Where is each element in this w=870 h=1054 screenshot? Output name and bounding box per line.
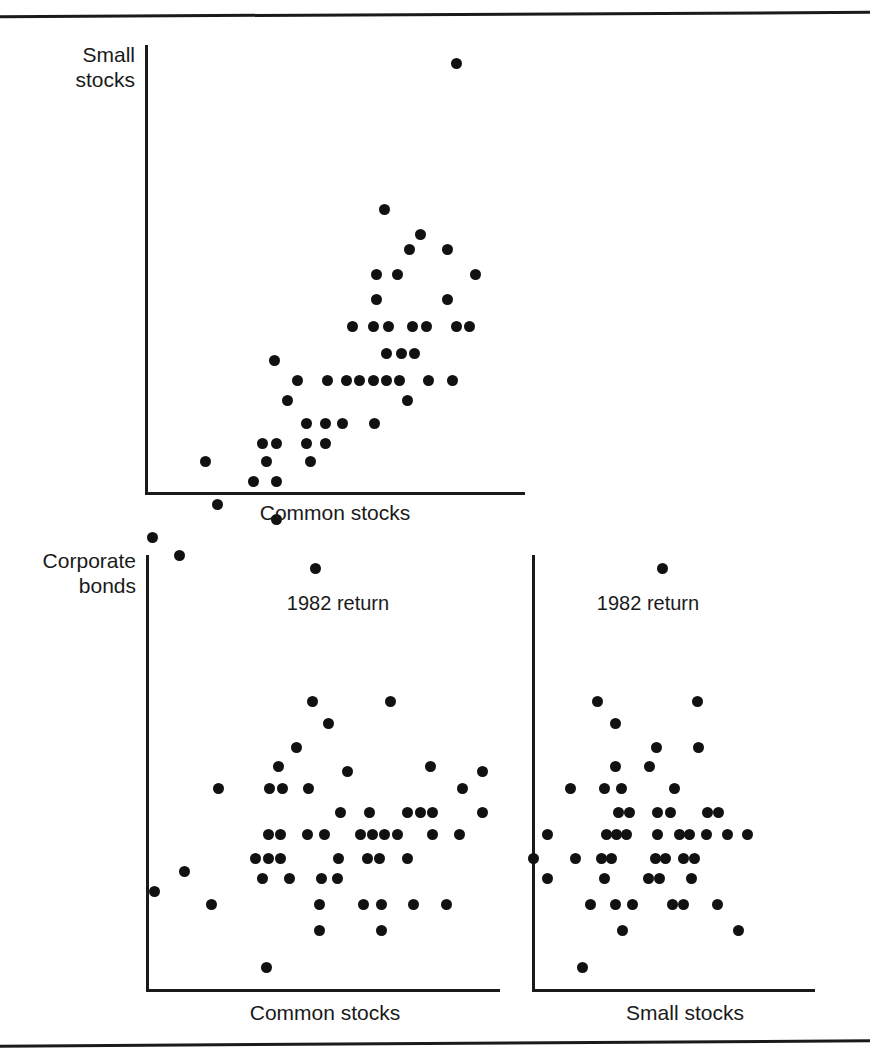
scatter-point [376, 899, 387, 910]
scatter-point [669, 783, 680, 794]
scatter-point [261, 456, 272, 467]
scatter-point [451, 58, 462, 69]
scatter-point [364, 807, 375, 818]
scatter-panel-bonds-vs-common [146, 555, 500, 992]
scatter-point [616, 783, 627, 794]
scatter-point [402, 853, 413, 864]
scatter-point [651, 742, 662, 753]
scatter-point [542, 873, 553, 884]
scatter-point [282, 395, 293, 406]
scatter-point [402, 395, 413, 406]
scatter-point [678, 899, 689, 910]
scatter-point [379, 204, 390, 215]
scatter-point [307, 696, 318, 707]
scatter-point [323, 718, 334, 729]
scatter-point [383, 321, 394, 332]
scatter-point [206, 899, 217, 910]
scatter-point [425, 761, 436, 772]
y-axis-label-small-stocks: Small stocks [20, 42, 135, 92]
scatter-point [528, 853, 539, 864]
scatter-point [314, 925, 325, 936]
scatter-point [381, 375, 392, 386]
x-axis-label-common-stocks-bottom: Common stocks [180, 1000, 470, 1025]
plot-area [145, 45, 525, 495]
scatter-point [644, 761, 655, 772]
scatter-point [284, 873, 295, 884]
scatter-point [149, 886, 160, 897]
scatter-point [261, 962, 272, 973]
y-axis-label-corporate-bonds: Corporate bonds [14, 548, 136, 598]
scatter-point [599, 783, 610, 794]
x-axis-label-small-stocks-bottom: Small stocks [540, 1000, 830, 1025]
scatter-point [367, 829, 378, 840]
scatter-point [701, 829, 712, 840]
scatter-panel-small-vs-common [145, 45, 525, 495]
scatter-point [147, 532, 158, 543]
annotation-1982-return-left: 1982 return [238, 592, 438, 615]
scatter-point [368, 321, 379, 332]
scatter-point [477, 766, 488, 777]
scatter-point [320, 418, 331, 429]
scatter-point [427, 807, 438, 818]
scatter-point [335, 807, 346, 818]
scatter-point [248, 476, 259, 487]
annotation-1982-return-right: 1982 return [548, 592, 748, 615]
scatter-point [271, 438, 282, 449]
scatter-point [565, 783, 576, 794]
scatter-point [305, 456, 316, 467]
scatter-point [650, 853, 661, 864]
scatter-point [292, 375, 303, 386]
scatter-point [314, 899, 325, 910]
scatter-point [652, 829, 663, 840]
scatter-point [275, 853, 286, 864]
scatter-point [657, 563, 668, 574]
scatter-point [303, 783, 314, 794]
scatter-point [643, 873, 654, 884]
scatter-point [374, 853, 385, 864]
scatter-point [702, 807, 713, 818]
scatter-point [610, 718, 621, 729]
scatter-point [689, 853, 700, 864]
scatter-point [477, 807, 488, 818]
scatter-point [678, 853, 689, 864]
scatter-point [264, 783, 275, 794]
scatter-point [599, 873, 610, 884]
scatter-point [358, 899, 369, 910]
scatter-point [263, 853, 274, 864]
scatter-point [408, 899, 419, 910]
scatter-point [613, 807, 624, 818]
scatter-point [415, 229, 426, 240]
scatter-point [392, 269, 403, 280]
scatter-point [624, 807, 635, 818]
scatter-point [447, 375, 458, 386]
scatter-point [200, 456, 211, 467]
scatter-point [733, 925, 744, 936]
scatter-point [302, 829, 313, 840]
scatter-point [742, 829, 753, 840]
scatter-point [585, 899, 596, 910]
scatter-point [316, 873, 327, 884]
scatter-point [379, 829, 390, 840]
scatter-point [713, 807, 724, 818]
scatter-point [332, 873, 343, 884]
scatter-point [570, 853, 581, 864]
scatter-point [409, 348, 420, 359]
scatter-point [385, 696, 396, 707]
scatter-point [577, 962, 588, 973]
scatter-point [667, 899, 678, 910]
scatter-point [291, 742, 302, 753]
scatter-point [652, 807, 663, 818]
scatter-point [610, 761, 621, 772]
scatter-point [368, 375, 379, 386]
scatter-point [415, 807, 426, 818]
scatter-point [319, 829, 330, 840]
scatter-point [457, 783, 468, 794]
top-rule [0, 11, 870, 18]
scatter-point [654, 873, 665, 884]
scatter-point [396, 348, 407, 359]
scatter-point [250, 853, 261, 864]
scatter-point [427, 829, 438, 840]
scatter-point [310, 563, 321, 574]
x-axis-label-common-stocks: Common stocks [195, 500, 475, 525]
scatter-point [362, 853, 373, 864]
